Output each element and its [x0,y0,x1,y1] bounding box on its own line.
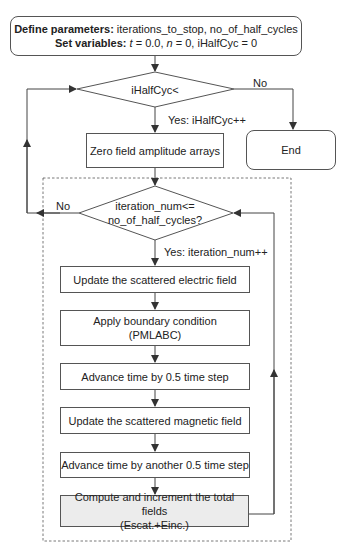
step-text: Update the scattered magnetic field [68,414,241,428]
decision1-yes-label: Yes: iHalfCyc++ [168,114,246,127]
step-text: Compute and increment the total fields [61,490,248,518]
step-subtext: (Escat.+Einc.) [120,518,189,532]
start-line-1: Define parameters: iterations_to_stop, n… [14,22,298,36]
step-text: Update the scattered electric field [73,273,236,287]
step-advance-another-half: Advance time by another 0.5 time step [60,452,250,478]
step-text: Advance time by 0.5 time step [81,370,228,384]
step-compute-total-fields: Compute and increment the total fields (… [60,495,249,527]
zero-arrays-text: Zero field amplitude arrays [90,144,220,158]
decision2-no-label: No [56,200,70,213]
decision2-text: iteration_num<= no_of_half_cycles? [95,199,215,227]
step-text: Apply boundary condition [93,314,217,328]
zero-arrays-box: Zero field amplitude arrays [86,133,224,168]
define-params-value: iterations_to_stop, no_of_half_cycles [114,23,298,35]
var-n-value: = 0, iHalfCyc = 0 [173,37,257,49]
start-box: Define parameters: iterations_to_stop, n… [10,16,302,56]
decision2-line-1: iteration_num<= [95,199,215,213]
decision1-no-label: No [253,77,267,90]
step-boundary-condition: Apply boundary condition (PMLABC) [60,310,250,346]
step-advance-half: Advance time by 0.5 time step [60,363,250,390]
decision2-line-2: no_of_half_cycles? [95,213,215,227]
step-subtext: (PMLABC) [129,328,182,342]
step-text: Advance time by another 0.5 time step [61,458,249,472]
var-t-value: = 0.0, [133,37,167,49]
end-box: End [246,130,336,170]
start-line-2: Set variables: t = 0.0, n = 0, iHalfCyc … [55,36,257,50]
set-vars-label: Set variables: [55,37,127,49]
decision2-yes-label: Yes: iteration_num++ [164,246,268,259]
step-update-magnetic: Update the scattered magnetic field [60,407,250,434]
define-params-label: Define parameters: [14,23,114,35]
step-update-electric: Update the scattered electric field [60,266,250,293]
decision1-text: iHalfCyc< [105,83,205,97]
end-text: End [281,143,301,157]
